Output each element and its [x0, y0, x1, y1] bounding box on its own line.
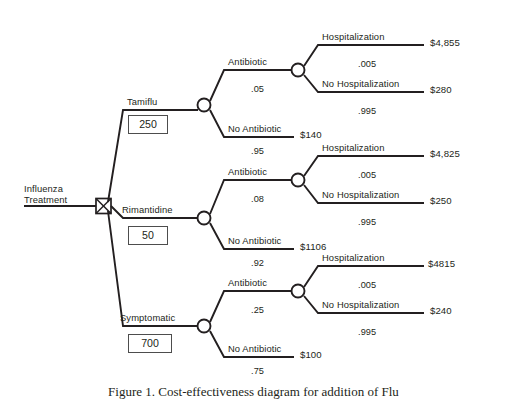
- branch-label-symptomatic-no-antibiotic: No Antibiotic: [228, 344, 281, 355]
- prob-rimantidine-antibiotic: .08: [251, 194, 264, 204]
- payoff-symptomatic-no-antibiotic: $100: [300, 350, 322, 361]
- branch-label-tamiflu-antibiotic: Antibiotic: [228, 57, 267, 68]
- branch-label-tamiflu-no-hospitalization: No Hospitalization: [322, 79, 399, 90]
- value-box-rimantidine: 50: [128, 226, 168, 245]
- branch-label-tamiflu-no-antibiotic: No Antibiotic: [228, 124, 281, 135]
- prob-rimantidine-hospitalization: .005: [358, 170, 376, 180]
- payoff-tamiflu-hospitalization: $4,855: [430, 38, 460, 49]
- prob-symptomatic-no-hospitalization: .995: [358, 327, 376, 337]
- branch-label-tamiflu: Tamiflu: [127, 97, 157, 108]
- branch-label-symptomatic-hospitalization: Hospitalization: [322, 253, 384, 264]
- payoff-rimantidine-hospitalization: $4,825: [430, 149, 460, 160]
- branch-label-rimantidine-hospitalization: Hospitalization: [322, 143, 384, 154]
- branch-label-symptomatic: Symptomatic: [120, 313, 175, 324]
- chance-node-rimantidine: [198, 212, 211, 225]
- prob-tamiflu-no-hospitalization: .995: [358, 106, 376, 116]
- payoff-symptomatic-hospitalization: $4815: [428, 259, 455, 270]
- prob-symptomatic-antibiotic: .25: [251, 305, 264, 315]
- root-label-line2: Treatment: [24, 195, 67, 206]
- branch-label-tamiflu-hospitalization: Hospitalization: [322, 32, 384, 43]
- payoff-symptomatic-no-hospitalization: $240: [430, 306, 452, 317]
- branch-label-rimantidine-no-hospitalization: No Hospitalization: [322, 190, 399, 201]
- prob-tamiflu-antibiotic: .05: [251, 84, 264, 94]
- payoff-tamiflu-no-hospitalization: $280: [430, 85, 452, 96]
- payoff-rimantidine-no-hospitalization: $250: [430, 196, 452, 207]
- branch-label-symptomatic-antibiotic: Antibiotic: [228, 278, 267, 289]
- branch-label-rimantidine-no-antibiotic: No Antibiotic: [228, 236, 281, 247]
- prob-tamiflu-hospitalization: .005: [358, 59, 376, 69]
- root-label-line1: Influenza: [24, 184, 63, 195]
- figure-caption: Figure 1. Cost-effectiveness diagram for…: [0, 384, 507, 400]
- chance-node-symptomatic: [198, 320, 211, 333]
- chance-node-rimantidine-antibiotic: [292, 174, 305, 187]
- chance-node-tamiflu: [198, 99, 211, 112]
- branch-label-rimantidine: Rimantidine: [122, 205, 173, 216]
- value-box-tamiflu: 250: [128, 115, 168, 134]
- prob-rimantidine-no-antibiotic: .92: [251, 258, 264, 268]
- prob-tamiflu-no-antibiotic: .95: [251, 146, 264, 156]
- prob-rimantidine-no-hospitalization: .995: [358, 217, 376, 227]
- branch-label-rimantidine-antibiotic: Antibiotic: [228, 167, 267, 178]
- prob-symptomatic-hospitalization: .005: [358, 280, 376, 290]
- prob-symptomatic-no-antibiotic: .75: [251, 366, 264, 376]
- value-box-symptomatic: 700: [128, 334, 172, 353]
- branch-label-symptomatic-no-hospitalization: No Hospitalization: [322, 300, 399, 311]
- payoff-tamiflu-no-antibiotic: $140: [300, 130, 322, 141]
- chance-node-tamiflu-antibiotic: [292, 64, 305, 77]
- chance-node-symptomatic-antibiotic: [292, 285, 305, 298]
